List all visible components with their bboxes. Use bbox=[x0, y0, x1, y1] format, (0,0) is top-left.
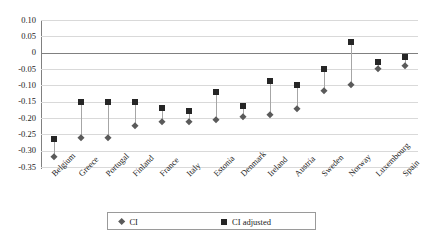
data-point-ci-adjusted bbox=[78, 99, 84, 105]
zero-gridline bbox=[41, 53, 418, 54]
data-point-ci bbox=[347, 81, 355, 89]
data-point-ci bbox=[212, 116, 220, 124]
data-point-ci-adjusted bbox=[51, 136, 57, 142]
data-point-ci bbox=[293, 105, 301, 113]
concentration-index-chart: 0.100.050-0.05-0.10-0.15-0.20-0.25-0.30-… bbox=[0, 0, 425, 241]
legend-item-ci: CI bbox=[118, 216, 138, 228]
chart-legend: CI CI adjusted bbox=[107, 212, 316, 230]
data-point-ci-adjusted bbox=[348, 39, 354, 45]
data-point-ci-adjusted bbox=[402, 54, 408, 60]
y-axis-tick-label: -0.20 bbox=[0, 114, 36, 123]
square-marker-icon bbox=[221, 219, 227, 225]
y-axis-tick-label: 0 bbox=[0, 48, 36, 57]
legend-label-ci-adjusted: CI adjusted bbox=[232, 217, 271, 228]
connector-line bbox=[351, 42, 352, 85]
data-point-ci bbox=[105, 134, 113, 142]
gridline bbox=[41, 85, 418, 86]
data-point-ci-adjusted bbox=[321, 66, 327, 72]
connector-line bbox=[108, 102, 109, 138]
data-point-ci bbox=[374, 65, 382, 73]
legend-item-ci-adjusted: CI adjusted bbox=[221, 216, 271, 228]
gridline bbox=[41, 102, 418, 103]
diamond-marker-icon bbox=[117, 218, 125, 226]
y-axis-tick-label: -0.30 bbox=[0, 146, 36, 155]
data-point-ci-adjusted bbox=[186, 108, 192, 114]
connector-line bbox=[270, 81, 271, 115]
data-point-ci bbox=[239, 114, 247, 122]
gridline bbox=[41, 134, 418, 135]
legend-label-ci: CI bbox=[129, 217, 138, 228]
gridline bbox=[41, 151, 418, 152]
y-axis-tick-label: -0.25 bbox=[0, 130, 36, 139]
y-axis-tick-label: 0.05 bbox=[0, 32, 36, 41]
y-axis-tick-label: -0.05 bbox=[0, 65, 36, 74]
data-point-ci bbox=[131, 122, 139, 130]
plot-area bbox=[41, 20, 418, 167]
gridline bbox=[41, 36, 418, 37]
data-point-ci-adjusted bbox=[213, 89, 219, 95]
connector-line bbox=[81, 102, 82, 138]
data-point-ci bbox=[158, 118, 166, 126]
data-point-ci-adjusted bbox=[240, 103, 246, 109]
y-axis-tick-label: -0.15 bbox=[0, 97, 36, 106]
gridline bbox=[41, 69, 418, 70]
gridline bbox=[41, 118, 418, 119]
gridline bbox=[41, 20, 418, 21]
data-point-ci-adjusted bbox=[159, 105, 165, 111]
data-point-ci-adjusted bbox=[105, 99, 111, 105]
data-point-ci bbox=[185, 118, 193, 126]
data-point-ci bbox=[78, 134, 86, 142]
y-axis-tick-label: 0.10 bbox=[0, 16, 36, 25]
data-point-ci bbox=[320, 87, 328, 95]
data-point-ci-adjusted bbox=[132, 99, 138, 105]
data-point-ci-adjusted bbox=[267, 78, 273, 84]
x-axis-category-labels: BelgiumGreecePortugalFinlandFranceItalyE… bbox=[0, 170, 425, 215]
y-axis-tick-label: -0.10 bbox=[0, 81, 36, 90]
data-point-ci-adjusted bbox=[294, 82, 300, 88]
data-point-ci bbox=[51, 153, 59, 161]
